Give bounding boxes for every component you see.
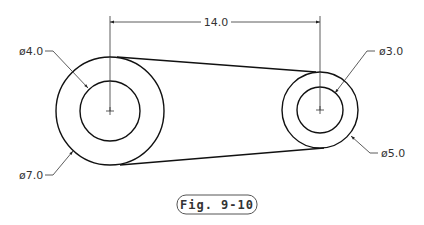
right-outer-leader [351, 136, 378, 153]
right-inner-diameter-label: ø3.0 [379, 45, 403, 58]
left-inner-diameter-label: ø4.0 [19, 45, 43, 58]
link-drawing: 14.0 ø4.0 ø7.0 ø3.0 ø5.0 Fig. 9-10 [0, 0, 424, 225]
left-outer-leader [45, 151, 73, 175]
figure-caption: Fig. 9-10 [180, 198, 254, 212]
right-outer-diameter-label: ø5.0 [381, 147, 405, 160]
center-distance-label: 14.0 [204, 16, 229, 29]
bottom-tangent-line [120, 148, 324, 165]
left-outer-diameter-label: ø7.0 [19, 169, 43, 182]
top-tangent-line [117, 57, 316, 72]
